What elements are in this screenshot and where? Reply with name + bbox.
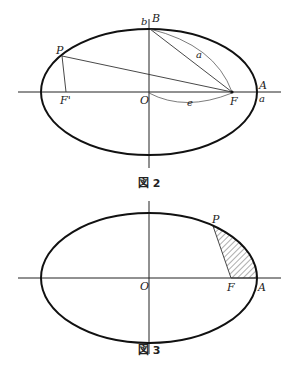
label-O: O bbox=[140, 94, 149, 107]
label-A: A bbox=[258, 79, 267, 92]
label-F: F bbox=[229, 95, 238, 108]
label-O: O bbox=[140, 280, 149, 293]
label-a-distance: a bbox=[196, 49, 202, 60]
segment-p-f bbox=[62, 56, 232, 92]
label-B: B bbox=[151, 12, 160, 25]
label-a-axis: a bbox=[259, 93, 265, 104]
figure-3: P O F A 図 3 bbox=[18, 201, 281, 357]
label-A: A bbox=[257, 281, 266, 294]
segment-b-f bbox=[150, 29, 232, 92]
label-F-prime: F' bbox=[59, 94, 71, 107]
caption-figure-3: 図 3 bbox=[138, 343, 160, 357]
label-b: b bbox=[141, 16, 147, 27]
label-F: F bbox=[226, 281, 235, 294]
hatched-region bbox=[213, 226, 257, 278]
label-P: P bbox=[211, 213, 220, 226]
diagram-canvas: b B P a F' O e F A a 図 2 P O F A 図 3 bbox=[0, 0, 296, 387]
caption-figure-2: 図 2 bbox=[138, 176, 160, 190]
label-P: P bbox=[55, 44, 64, 57]
label-e: e bbox=[187, 97, 193, 108]
segment-p-fprime bbox=[62, 56, 66, 92]
figure-2: b B P a F' O e F A a 図 2 bbox=[18, 12, 281, 190]
focus-f-point bbox=[230, 90, 233, 93]
